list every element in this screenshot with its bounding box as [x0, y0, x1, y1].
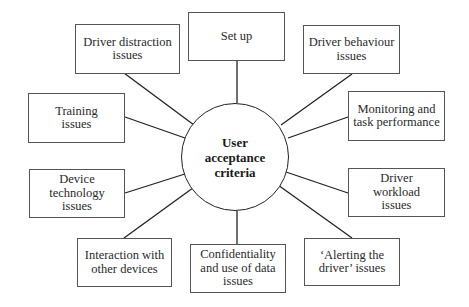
- node-driver-workload: Driver workload issues: [348, 168, 445, 217]
- center-label-line-2: acceptance: [205, 150, 266, 165]
- node-label: ‘Alerting the driver’ issues: [312, 249, 392, 276]
- connector-interaction: [124, 185, 197, 238]
- node-label: Monitoring and task performance: [353, 103, 440, 130]
- connector-driver-workload: [286, 172, 348, 193]
- node-label: Driver distraction issues: [80, 36, 175, 63]
- node-label: Interaction with other devices: [82, 249, 167, 276]
- node-confidentiality: Confidentiality and use of data issues: [190, 244, 286, 293]
- center-node-user-acceptance-criteria: User acceptance criteria: [181, 103, 289, 211]
- node-alerting: ‘Alerting the driver’ issues: [304, 238, 400, 286]
- node-monitoring: Monitoring and task performance: [348, 91, 445, 141]
- connector-driver-distraction: [124, 73, 194, 125]
- node-label: Confidentiality and use of data issues: [195, 248, 281, 289]
- node-interaction: Interaction with other devices: [77, 238, 172, 287]
- node-device-technology: Device technology issues: [29, 169, 125, 218]
- node-label: Training issues: [53, 105, 101, 132]
- connector-driver-behaviour: [281, 74, 352, 125]
- connector-alerting: [278, 185, 352, 238]
- center-label-line-1: User: [205, 135, 266, 150]
- connector-training: [125, 117, 185, 138]
- connector-monitoring: [288, 117, 348, 138]
- node-training: Training issues: [28, 93, 125, 143]
- node-driver-distraction: Driver distraction issues: [75, 24, 180, 74]
- node-label: Driver workload issues: [367, 172, 427, 213]
- connector-device-technology: [125, 173, 188, 193]
- node-label: Set up: [221, 30, 253, 44]
- center-label-line-3: criteria: [205, 165, 266, 180]
- node-set-up: Set up: [188, 12, 285, 61]
- node-label: Device technology issues: [44, 173, 110, 214]
- node-driver-behaviour: Driver behaviour issues: [303, 25, 400, 74]
- node-label: Driver behaviour issues: [308, 36, 395, 63]
